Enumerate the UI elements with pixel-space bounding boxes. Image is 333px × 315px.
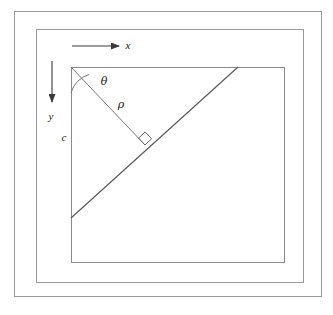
figure-root: x y c θ ρ xyxy=(0,0,333,315)
figure-background xyxy=(0,0,333,315)
x-axis-label: x xyxy=(125,39,131,51)
theta-label: θ xyxy=(101,75,108,88)
c-label: c xyxy=(62,131,67,143)
y-axis-label: y xyxy=(48,110,54,122)
diagram-canvas: x y c θ ρ xyxy=(0,0,333,315)
rho-label: ρ xyxy=(117,98,125,111)
